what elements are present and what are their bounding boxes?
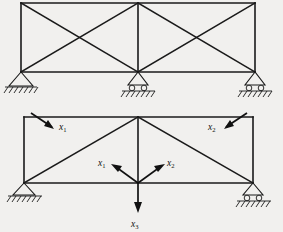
lower-support-right-roller [236,183,271,207]
lower-left-diagonal [24,117,138,183]
arrowhead-center-down [134,202,142,213]
force-label-center-left: x1 [97,158,106,169]
lower-truss [7,117,271,207]
upper-support-center-roller [121,72,155,97]
truss-diagram-svg: x1 x2 x1 x2 x3 [0,0,283,232]
arrowhead-top-right [224,120,234,129]
truss-figure: x1 x2 x1 x2 x3 [0,0,283,232]
force-arrow-center-left [111,164,138,183]
lower-right-diagonal [138,117,253,183]
upper-support-right-roller [238,72,272,97]
force-arrow-center-down [134,183,142,213]
force-label-center-down: x3 [130,219,139,230]
force-label-center-right: x2 [166,158,175,169]
upper-support-left-pinned [4,72,38,93]
force-label-top-left: x1 [58,122,67,133]
lower-support-left-pinned [7,183,42,202]
force-arrow-top-right [224,113,247,129]
force-arrow-top-left [31,113,54,129]
force-arrow-center-right [138,164,165,183]
force-label-top-right: x2 [207,122,216,133]
arrowhead-top-left [44,120,54,129]
upper-truss [4,3,272,97]
